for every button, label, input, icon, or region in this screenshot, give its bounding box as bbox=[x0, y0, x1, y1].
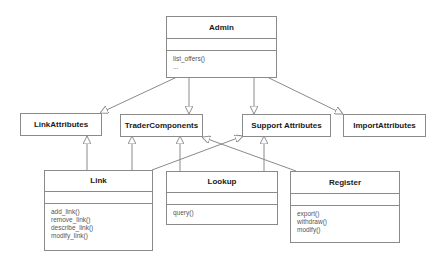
operation: withdraw() bbox=[297, 218, 399, 226]
class-name: Register bbox=[291, 172, 399, 194]
operation: remove_link() bbox=[51, 216, 152, 224]
interface-name: TraderComponents bbox=[125, 121, 198, 130]
operations-compartment: list_offers() ... bbox=[167, 51, 276, 71]
class-link: Link add_link() remove_link() describe_l… bbox=[44, 170, 153, 251]
interface-name: LinkAttributes bbox=[34, 120, 88, 129]
class-admin: Admin list_offers() ... bbox=[166, 16, 277, 78]
class-name: Admin bbox=[167, 17, 276, 39]
interface-name: ImportAttributes bbox=[353, 121, 416, 130]
register-to-tradercomponents bbox=[202, 137, 296, 171]
operations-compartment: export() withdraw() modify() bbox=[291, 206, 399, 234]
interface-tradercomponents: TraderComponents bbox=[120, 114, 203, 137]
operation: query() bbox=[173, 209, 277, 217]
operations-compartment: query() bbox=[167, 205, 277, 217]
class-lookup: Lookup query() bbox=[166, 171, 278, 225]
attributes-compartment bbox=[167, 193, 277, 205]
operations-compartment: add_link() remove_link() describe_link()… bbox=[45, 204, 152, 240]
attributes-compartment bbox=[291, 194, 399, 206]
admin-to-importattributes bbox=[267, 77, 343, 114]
operation: modify_link() bbox=[51, 232, 152, 240]
interface-importattributes: ImportAttributes bbox=[343, 114, 426, 137]
interface-name: Support Attributes bbox=[251, 121, 321, 130]
operation: ... bbox=[173, 63, 276, 71]
operation: export() bbox=[297, 210, 399, 218]
interface-supportattributes: Support Attributes bbox=[242, 114, 331, 137]
attributes-compartment bbox=[45, 192, 152, 204]
class-name: Link bbox=[45, 171, 152, 192]
operation: describe_link() bbox=[51, 224, 152, 232]
interface-linkattributes: LinkAttributes bbox=[20, 113, 102, 136]
link-to-supportattributes bbox=[152, 136, 243, 170]
operation: modify() bbox=[297, 226, 399, 234]
class-register: Register export() withdraw() modify() bbox=[290, 171, 400, 243]
class-name: Lookup bbox=[167, 172, 277, 193]
operation: add_link() bbox=[51, 208, 152, 216]
attributes-compartment bbox=[167, 39, 276, 51]
admin-to-linkattributes bbox=[100, 77, 177, 113]
operation: list_offers() bbox=[173, 55, 276, 63]
